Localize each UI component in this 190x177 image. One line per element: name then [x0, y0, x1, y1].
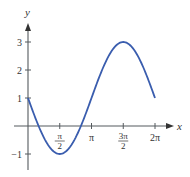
y-tick-label: 2: [17, 65, 22, 76]
axes: x y: [14, 6, 182, 170]
chart-svg: x y π2π3π22π 321−1: [0, 0, 190, 177]
y-tick-label: 1: [17, 93, 22, 104]
x-tick-label: π: [89, 132, 94, 143]
x-tick-label-denominator: 2: [58, 141, 63, 151]
x-tick-label-numerator: π: [57, 131, 62, 141]
y-tick-label: 3: [17, 37, 22, 48]
x-axis-arrow: [166, 123, 174, 129]
x-tick-label-numerator: 3π: [119, 131, 129, 141]
x-tick-label: 2π: [150, 132, 160, 143]
y-axis-label: y: [24, 6, 30, 18]
y-tick-label: −1: [11, 149, 22, 160]
x-tick-label-denominator: 2: [121, 141, 126, 151]
y-axis-arrow: [25, 23, 31, 31]
x-axis-label: x: [176, 120, 182, 132]
